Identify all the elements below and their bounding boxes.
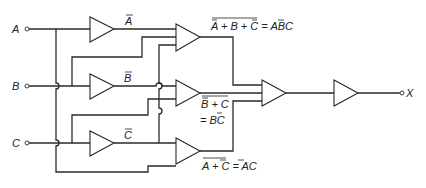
expr-gate-3: A + C = AC [201,158,257,172]
output-x: X [400,87,414,99]
output-x-terminal[interactable] [400,91,404,95]
svg-text:A + B + C = ABC: A + B + C = ABC [210,20,293,32]
label-c-bar: C [124,129,132,141]
svg-text:B + C: B + C [201,98,229,110]
label-a-bar: A [124,15,133,27]
svg-text:A: A [124,15,132,27]
input-a-terminal[interactable] [25,27,29,31]
svg-text:= BC: = BC [200,114,225,126]
input-a-label: A [11,23,19,35]
label-b-bar: B [124,72,132,84]
gate-2 [176,80,200,106]
gate-3 [176,138,200,164]
input-b-terminal[interactable] [25,84,29,88]
logic-circuit-diagram: A B C [0,0,426,188]
expr-gate-1: A + B + C = ABC [210,18,293,32]
gate-5 [334,80,358,106]
svg-text:B: B [124,72,131,84]
output-x-label: X [405,87,414,99]
input-b-label: B [12,80,19,92]
input-c: C [12,137,29,149]
svg-text:A + C = AC: A + C = AC [201,160,257,172]
svg-text:C: C [124,129,132,141]
input-c-terminal[interactable] [25,141,29,145]
gate-1 [176,24,200,51]
input-c-label: C [12,137,20,149]
input-b: B [12,80,29,92]
inverter-c [90,131,114,156]
input-a: A [11,23,29,35]
expr-gate-2: B + C = BC [200,96,229,126]
inverter-b [90,74,114,99]
gate-4 [262,80,286,106]
inverter-a [90,17,114,42]
